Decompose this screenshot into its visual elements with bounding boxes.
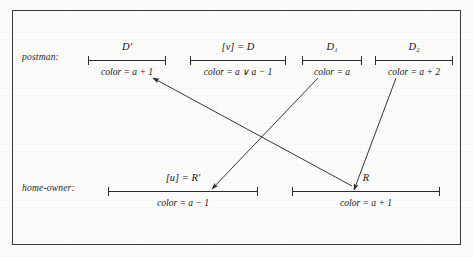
segment-v-eq-d-color: color = a ∨ a − 1 [190,68,286,78]
segment-line [302,60,362,61]
segment-tick-left [108,187,109,196]
segment-tick-left [302,56,303,65]
segment-u-eq-r-prime-color: color = a − 1 [108,199,258,209]
segment-v-eq-d-bar [190,56,286,65]
segment-d-prime-color: color = a + 1 [88,68,166,78]
segment-line [108,191,258,192]
segment-d-one-name: D₁ [302,42,362,54]
segment-u-eq-r-prime-bar [108,187,258,196]
segment-line [375,60,453,61]
segment-u-eq-r-prime-name: [u] = R′ [108,173,258,185]
segment-d-prime: D′ color = a + 1 [88,42,166,78]
segment-tick-left [190,56,191,65]
segment-line [190,60,286,61]
segment-tick-right [439,187,440,196]
segment-line [88,60,166,61]
segment-d-prime-name: D′ [88,42,166,54]
segment-d-prime-bar [88,56,166,65]
segment-tick-left [292,187,293,196]
segment-d-one: D₁ color = a [302,42,362,78]
row-label-home-owner: home-owner: [22,183,75,193]
segment-tick-right [285,56,286,65]
segment-r-bar [292,187,440,196]
segment-d-two-name: D₂ [375,42,453,54]
segment-d-one-color: color = a [302,68,362,78]
segment-tick-right [361,56,362,65]
segment-u-eq-r-prime: [u] = R′ color = a − 1 [108,173,258,209]
segment-d-two-bar [375,56,453,65]
row-label-postman: postman: [22,52,59,62]
segment-r: R color = a + 1 [292,173,440,209]
segment-v-eq-d: [v] = D color = a ∨ a − 1 [190,42,286,78]
segment-r-name: R [292,173,440,185]
segment-tick-right [165,56,166,65]
segment-tick-left [88,56,89,65]
segment-tick-right [257,187,258,196]
segment-line [292,191,440,192]
segment-d-two-color: color = a + 2 [375,68,453,78]
segment-tick-left [375,56,376,65]
segment-d-two: D₂ color = a + 2 [375,42,453,78]
segment-d-one-bar [302,56,362,65]
segment-tick-right [452,56,453,65]
segment-v-eq-d-name: [v] = D [190,42,286,54]
figure-canvas: postman: home-owner: D′ color = a + 1 [v… [0,0,473,257]
segment-r-color: color = a + 1 [292,199,440,209]
